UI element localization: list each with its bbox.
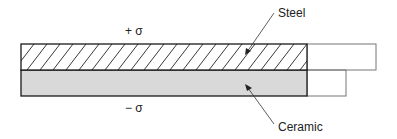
steel-layer	[14, 44, 320, 70]
ceramic-label: Ceramic	[278, 120, 323, 134]
steel-expansion-outline	[307, 44, 376, 70]
ceramic-layer	[21, 70, 307, 96]
bilayer-diagram: Steel Ceramic + σ − σ	[0, 0, 397, 139]
steel-label: Steel	[278, 6, 305, 20]
ceramic-expansion-outline	[307, 70, 346, 96]
tension-stress-label: + σ	[125, 24, 143, 38]
compression-stress-label: − σ	[125, 101, 143, 115]
